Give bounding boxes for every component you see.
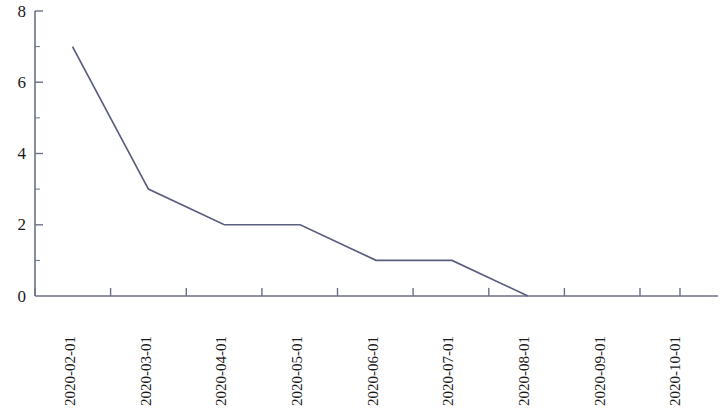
x-tick-label-8: 2020-10-01 (667, 336, 684, 406)
y-tick-label-2: 2 (4, 216, 26, 233)
x-tick-label-4: 2020-06-01 (365, 336, 382, 406)
x-tick-label-3: 2020-05-01 (289, 336, 306, 406)
chart-plot-area (0, 0, 720, 411)
y-tick-label-0: 0 (4, 288, 26, 305)
y-axis-ticks (35, 11, 43, 260)
x-tick-label-2: 2020-04-01 (213, 336, 230, 406)
chart-axes (35, 11, 718, 296)
x-tick-label-5: 2020-07-01 (440, 336, 457, 406)
x-tick-label-6: 2020-08-01 (516, 336, 533, 406)
x-tick-label-1: 2020-03-01 (138, 336, 155, 406)
line-chart: 8 6 4 2 0 2020-02-01 2020-03-01 2020-04-… (0, 0, 720, 411)
y-tick-label-4: 4 (4, 145, 26, 162)
x-tick-label-0: 2020-02-01 (62, 336, 79, 406)
y-tick-label-8: 8 (4, 3, 26, 20)
x-axis-ticks (35, 288, 680, 296)
y-tick-label-6: 6 (4, 74, 26, 91)
x-tick-label-7: 2020-09-01 (592, 336, 609, 406)
data-series-line (73, 47, 528, 296)
